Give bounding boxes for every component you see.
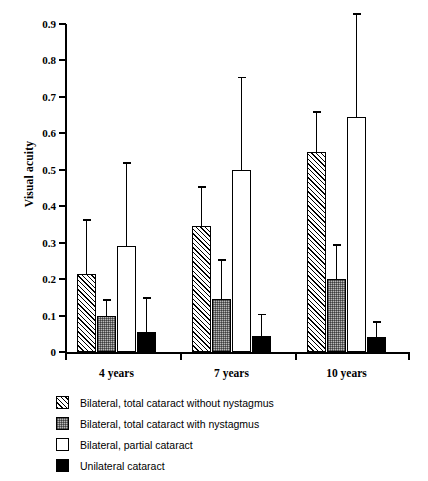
bar: [232, 170, 251, 352]
legend-item[interactable]: Bilateral, total cataract with nystagmus: [56, 413, 416, 434]
bar: [307, 152, 326, 352]
x-tick-mark: [180, 352, 182, 360]
y-tick-label: 0.2: [42, 274, 56, 285]
bar: [97, 316, 116, 352]
y-tick-mark: [59, 59, 66, 61]
error-bar-cap: [258, 314, 266, 316]
error-bar-stem: [241, 77, 242, 170]
error-bar-cap: [238, 77, 246, 79]
legend-label: Unilateral cataract: [80, 460, 165, 472]
y-tick-label: 0.4: [42, 201, 56, 212]
bar: [367, 337, 386, 352]
y-tick-mark: [59, 315, 66, 317]
y-tick-label: 0.8: [42, 55, 56, 66]
error-bar-stem: [201, 186, 202, 226]
legend-swatch-diagonal-hatch: [56, 396, 69, 409]
error-bar-cap: [143, 297, 151, 299]
y-tick-label: 0: [51, 347, 57, 358]
legend-item[interactable]: Bilateral, partial cataract: [56, 434, 416, 455]
error-bar-cap: [353, 13, 361, 15]
y-tick-label: 0.3: [42, 237, 56, 248]
legend-label: Bilateral, partial cataract: [80, 439, 193, 451]
error-bar-stem: [86, 219, 87, 274]
y-tick-mark: [59, 242, 66, 244]
error-bar-cap: [123, 162, 131, 164]
bar: [192, 226, 211, 352]
error-bar-cap: [83, 219, 91, 221]
bar: [137, 332, 156, 352]
y-tick-label: 0.5: [42, 164, 56, 175]
x-group-label: 10 years: [326, 367, 367, 379]
error-bar-cap: [373, 321, 381, 323]
y-tick-mark: [59, 23, 66, 25]
y-axis-title: Visual acuity: [23, 119, 35, 229]
y-tick-label: 0.1: [42, 310, 56, 321]
error-bar-stem: [356, 13, 357, 117]
chart-legend: Bilateral, total cataract without nystag…: [56, 392, 416, 476]
y-tick-mark: [59, 205, 66, 207]
y-tick-mark: [59, 132, 66, 134]
bar: [327, 279, 346, 352]
legend-swatch-gray-stipple: [56, 417, 69, 430]
error-bar-cap: [198, 186, 206, 188]
y-tick-mark: [59, 96, 66, 98]
bar: [252, 336, 271, 352]
y-tick-label: 0.7: [42, 91, 56, 102]
y-axis-line: [65, 24, 67, 353]
x-group-label: 4 years: [99, 367, 134, 379]
y-tick-label: 0.6: [42, 128, 56, 139]
error-bar-stem: [336, 244, 337, 279]
error-bar-stem: [261, 314, 262, 336]
legend-swatch-open-white: [56, 438, 69, 451]
bar: [347, 117, 366, 352]
x-tick-mark: [295, 352, 297, 360]
chart-figure: Visual acuity 00.10.20.30.40.50.60.70.80…: [0, 0, 428, 481]
x-tick-mark: [408, 352, 410, 360]
legend-item[interactable]: Unilateral cataract: [56, 455, 416, 476]
bar: [117, 246, 136, 352]
legend-swatch-solid-black: [56, 459, 69, 472]
bar: [77, 274, 96, 352]
error-bar-stem: [106, 299, 107, 315]
bar: [212, 299, 231, 352]
legend-label: Bilateral, total cataract without nystag…: [80, 397, 274, 409]
x-group-label: 7 years: [214, 367, 249, 379]
legend-label: Bilateral, total cataract with nystagmus: [80, 418, 259, 430]
y-tick-mark: [59, 278, 66, 280]
x-tick-mark: [65, 352, 67, 360]
error-bar-stem: [376, 321, 377, 337]
error-bar-stem: [146, 297, 147, 332]
error-bar-cap: [333, 244, 341, 246]
error-bar-cap: [313, 111, 321, 113]
x-axis-line: [65, 352, 410, 354]
y-tick-label: 0.9: [42, 19, 56, 30]
error-bar-stem: [316, 111, 317, 151]
plot-area: 00.10.20.30.40.50.60.70.80.9 4 years7 ye…: [65, 24, 410, 352]
legend-item[interactable]: Bilateral, total cataract without nystag…: [56, 392, 416, 413]
error-bar-cap: [218, 259, 226, 261]
y-tick-mark: [59, 169, 66, 171]
error-bar-stem: [126, 162, 127, 246]
error-bar-cap: [103, 299, 111, 301]
error-bar-stem: [221, 259, 222, 299]
